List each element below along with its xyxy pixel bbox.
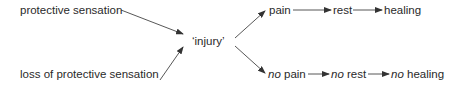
arrow-injury-to-pain <box>235 11 265 38</box>
node-pain: pain <box>269 4 291 17</box>
node-loss-of-protective-sensation: loss of protective sensation <box>20 68 159 81</box>
node-no-pain: no pain <box>268 68 306 81</box>
node-healing: healing <box>384 4 421 17</box>
node-label: rest <box>347 68 366 80</box>
arrow-protective-to-injury <box>121 10 183 34</box>
no-prefix: no <box>268 68 281 80</box>
arrow-loss-to-injury <box>160 47 183 80</box>
node-label: healing <box>407 68 444 80</box>
node-rest: rest <box>333 4 352 17</box>
node-no-healing: no healing <box>391 68 444 81</box>
arrow-injury-to-no-pain <box>235 46 265 73</box>
no-prefix: no <box>331 68 344 80</box>
node-label: pain <box>284 68 306 80</box>
node-protective-sensation: protective sensation <box>20 4 122 17</box>
node-no-rest: no rest <box>331 68 366 81</box>
node-injury: ‘injury’ <box>192 35 225 48</box>
no-prefix: no <box>391 68 404 80</box>
